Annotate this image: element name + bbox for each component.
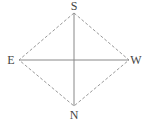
label-top: S (71, 0, 78, 13)
compass-diagram: S N E W (0, 0, 148, 123)
label-right: W (130, 53, 142, 67)
label-left: E (7, 53, 14, 67)
label-bottom: N (70, 108, 79, 122)
